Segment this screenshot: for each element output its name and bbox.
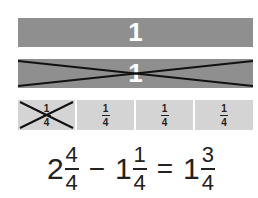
cross-out-icon xyxy=(18,100,75,130)
quarter-piece-crossed: 1 4 xyxy=(18,100,75,130)
result-fraction: 3 4 xyxy=(201,144,215,194)
quarter-bars: 1 4 1 4 1 4 1 4 xyxy=(18,100,253,130)
fraction: 1 4 xyxy=(136,103,193,128)
quarter-piece: 1 4 xyxy=(195,100,253,130)
denominator: 4 xyxy=(202,172,214,194)
denominator: 4 xyxy=(66,172,78,194)
numerator: 1 xyxy=(103,103,109,114)
denominator: 4 xyxy=(134,172,146,194)
whole-bar-label: 1 xyxy=(18,18,253,47)
numerator: 4 xyxy=(66,144,78,166)
crossed-whole-bar: 1 xyxy=(18,59,253,88)
minus-operator: − xyxy=(89,154,105,184)
whole-bar: 1 xyxy=(18,18,253,47)
denominator: 4 xyxy=(221,117,227,128)
term1-whole: 2 xyxy=(47,154,64,184)
equation: 2 4 4 − 1 1 4 = 1 3 4 xyxy=(47,143,215,195)
result-whole: 1 xyxy=(183,154,200,184)
fraction: 1 4 xyxy=(195,103,253,128)
cross-out-icon xyxy=(18,59,253,88)
quarter-piece: 1 4 xyxy=(136,100,193,130)
term2-whole: 1 xyxy=(115,154,132,184)
numerator: 1 xyxy=(221,103,227,114)
numerator: 1 xyxy=(162,103,168,114)
denominator: 4 xyxy=(103,117,109,128)
equals-operator: = xyxy=(157,154,173,184)
quarter-piece: 1 4 xyxy=(77,100,134,130)
numerator: 1 xyxy=(134,144,146,166)
denominator: 4 xyxy=(162,117,168,128)
term2-fraction: 1 4 xyxy=(133,144,147,194)
term1-fraction: 4 4 xyxy=(65,144,79,194)
numerator: 3 xyxy=(202,144,214,166)
fraction: 1 4 xyxy=(77,103,134,128)
